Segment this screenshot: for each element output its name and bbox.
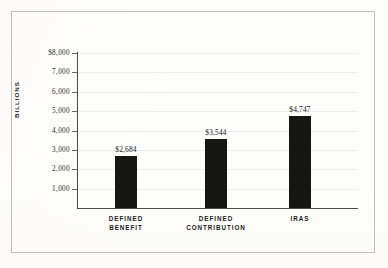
gridline bbox=[78, 92, 358, 93]
gridline bbox=[78, 111, 358, 112]
gridline bbox=[78, 53, 358, 54]
bar-value-label: $3,544 bbox=[205, 128, 227, 137]
y-axis-tick-label: $8,000 bbox=[10, 49, 70, 57]
y-axis-tick-label: 2,000 bbox=[10, 165, 70, 173]
y-axis-tick bbox=[72, 111, 77, 112]
bar-value-label: $4,747 bbox=[289, 105, 311, 114]
x-axis-category-line: DEFINED bbox=[186, 214, 246, 223]
y-axis-tick-labels: 1,0002,0003,0004,0005,0006,0007,000$8,00… bbox=[8, 0, 70, 268]
bar-value-label: $2,684 bbox=[115, 145, 137, 154]
y-axis-tick bbox=[72, 150, 77, 151]
x-axis-line bbox=[78, 208, 358, 209]
y-axis-tick bbox=[72, 169, 77, 170]
y-axis-tick-label: 4,000 bbox=[10, 127, 70, 135]
y-axis-tick-label: 5,000 bbox=[10, 107, 70, 115]
x-axis-category-line: BENEFIT bbox=[109, 223, 143, 232]
y-axis-tick bbox=[72, 92, 77, 93]
y-axis-tick bbox=[72, 131, 77, 132]
x-axis-category-line: IRAS bbox=[291, 214, 310, 223]
y-axis-tick-label: 3,000 bbox=[10, 146, 70, 154]
bar bbox=[289, 116, 311, 208]
bar bbox=[115, 156, 137, 208]
y-axis-tick-label: 6,000 bbox=[10, 88, 70, 96]
x-axis-category-label: DEFINEDCONTRIBUTION bbox=[186, 214, 246, 232]
chart-figure: BILLIONS 1,0002,0003,0004,0005,0006,0007… bbox=[0, 0, 388, 268]
y-axis-tick-label: 1,000 bbox=[10, 185, 70, 193]
gridline bbox=[78, 72, 358, 73]
y-axis-tick-label: 7,000 bbox=[10, 68, 70, 76]
bar bbox=[205, 139, 227, 208]
x-axis-category-line: DEFINED bbox=[109, 214, 143, 223]
x-axis-category-label: DEFINEDBENEFIT bbox=[109, 214, 143, 232]
y-axis-tick bbox=[72, 72, 77, 73]
y-axis-tick bbox=[72, 53, 77, 54]
x-axis-category-label: IRAS bbox=[291, 214, 310, 223]
y-axis-tick bbox=[72, 189, 77, 190]
x-axis-category-line: CONTRIBUTION bbox=[186, 223, 246, 232]
